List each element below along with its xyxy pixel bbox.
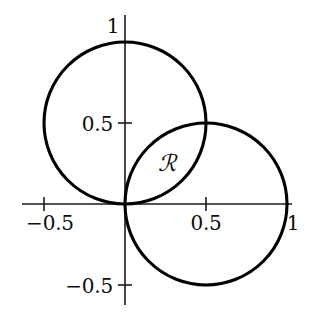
y-tick-label-neg-half: −0.5 [65,274,113,298]
polar-plot-canvas: −0.5 0.5 1 1 0.5 −0.5 ℛ [0,0,318,317]
y-tick-label-one: 1 [107,14,120,38]
x-tick-label-neg-half: −0.5 [26,211,74,235]
x-tick-label-half: 0.5 [190,211,221,235]
region-label-script-r: ℛ [158,150,178,176]
polar-figure: −0.5 0.5 1 1 0.5 −0.5 ℛ [0,0,318,317]
y-tick-label-half: 0.5 [82,112,113,136]
x-tick-label-one: 1 [287,211,300,235]
axes-group [22,15,292,305]
